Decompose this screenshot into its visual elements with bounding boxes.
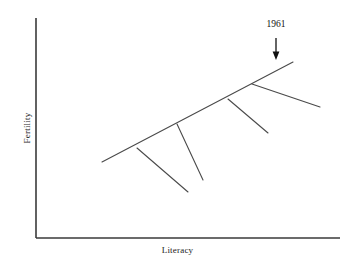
annotation-label-1961: 1961	[254, 19, 298, 29]
main-trend-line	[102, 62, 293, 162]
chart-canvas	[0, 0, 355, 270]
trend-lines-group	[102, 62, 320, 192]
fertility-literacy-chart: 1961 Fertility Literacy	[0, 0, 355, 270]
branch-1	[137, 148, 188, 192]
branch-4	[252, 84, 320, 107]
axes-group	[36, 18, 340, 238]
x-axis-label: Literacy	[0, 245, 355, 255]
annotation-arrow-head	[273, 52, 280, 61]
branch-2	[177, 124, 203, 180]
y-axis-label: Fertility	[22, 83, 32, 173]
annotation-arrow-group	[273, 38, 280, 60]
branch-3	[228, 99, 268, 133]
